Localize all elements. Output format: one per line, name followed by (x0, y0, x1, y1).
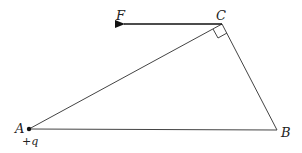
label-charge: +q (22, 135, 38, 148)
side-ac (29, 24, 222, 129)
side-cb (222, 24, 277, 130)
label-c: C (216, 8, 226, 23)
charge-point (27, 127, 31, 131)
side-ab (29, 129, 277, 130)
label-f: F (115, 8, 126, 23)
diagram-canvas: F C A +q B (0, 0, 302, 153)
label-b: B (280, 125, 291, 140)
label-a: A (14, 121, 24, 136)
